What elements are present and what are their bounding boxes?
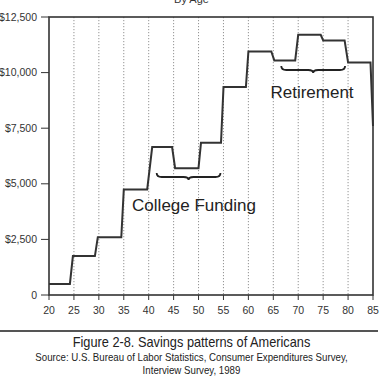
y-tick-label: $10,000 (0, 66, 37, 78)
savings-chart: 0$2,500$5,000$7,500$10,000$12,500 202530… (0, 0, 383, 330)
annotation-label: College Funding (132, 196, 256, 215)
x-tick-label: 55 (218, 304, 230, 316)
caption-separator (0, 330, 378, 332)
brace-icon (157, 173, 221, 180)
x-tick-label: 45 (168, 304, 180, 316)
x-tick-label: 30 (93, 304, 105, 316)
y-axis: 0$2,500$5,000$7,500$10,000$12,500 (0, 11, 49, 301)
savings-line (49, 35, 373, 284)
x-tick-label: 60 (243, 304, 255, 316)
x-tick-label: 50 (193, 304, 205, 316)
source-line-2: Interview Survey, 1989 (23, 364, 360, 376)
y-tick-label: $12,500 (0, 11, 37, 23)
y-tick-label: $2,500 (5, 233, 37, 245)
x-tick-label: 20 (43, 304, 55, 316)
source-line-1: Source: U.S. Bureau of Labor Statistics,… (23, 351, 360, 363)
x-tick-label: 80 (342, 304, 354, 316)
x-tick-label: 40 (143, 304, 155, 316)
annotation-label: Retirement (270, 83, 353, 102)
x-tick-label: 70 (292, 304, 304, 316)
x-axis: 2025303540455055606570758085 (43, 295, 379, 316)
x-tick-label: 25 (68, 304, 80, 316)
x-tick-label: 85 (367, 304, 379, 316)
annotations: College FundingRetirement (132, 66, 354, 215)
brace-icon (281, 66, 345, 73)
y-tick-label: $5,000 (5, 177, 37, 189)
vertical-gridlines (74, 17, 348, 295)
y-tick-label: $7,500 (5, 122, 37, 134)
x-tick-label: 35 (118, 304, 130, 316)
x-tick-label: 75 (317, 304, 329, 316)
figure-title: Figure 2-8. Savings patterns of American… (23, 334, 360, 350)
plot-frame (49, 17, 373, 295)
y-tick-label: 0 (31, 289, 37, 301)
x-tick-label: 65 (267, 304, 279, 316)
